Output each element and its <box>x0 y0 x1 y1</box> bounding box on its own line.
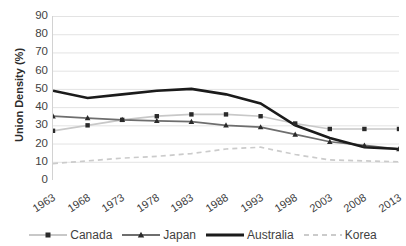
legend-item-australia[interactable]: Australia <box>206 228 294 242</box>
marker-canada <box>189 112 193 116</box>
marker-canada <box>397 127 399 131</box>
legend-swatch-korea-icon <box>304 230 342 240</box>
y-tick-label: 50 <box>35 83 48 95</box>
legend-swatch-canada-icon <box>29 230 67 240</box>
legend-item-korea[interactable]: Korea <box>304 228 377 242</box>
marker-canada <box>155 114 159 118</box>
marker-canada <box>293 121 297 125</box>
legend-item-japan[interactable]: Japan <box>122 228 196 242</box>
y-tick-label: 30 <box>35 120 48 132</box>
y-tick-label: 60 <box>35 65 48 77</box>
marker-canada <box>224 112 228 116</box>
chart-legend: CanadaJapanAustraliaKorea <box>0 224 406 246</box>
marker-canada <box>258 114 262 118</box>
legend-label-japan: Japan <box>163 228 196 242</box>
y-tick-label: 80 <box>35 28 48 40</box>
legend-item-canada[interactable]: Canada <box>29 228 112 242</box>
legend-label-canada: Canada <box>70 228 112 242</box>
legend-label-australia: Australia <box>247 228 294 242</box>
y-tick-label: 20 <box>35 138 48 150</box>
legend-swatch-japan-icon <box>122 230 160 240</box>
x-axis-tick-labels: 1963196819731978198319881993199820032008… <box>0 180 406 220</box>
plot-svg <box>53 16 399 180</box>
marker-canada <box>328 127 332 131</box>
y-tick-label: 40 <box>35 101 48 113</box>
legend-swatch-australia-icon <box>206 230 244 240</box>
marker-canada <box>85 123 89 127</box>
y-axis-tick-labels: 9080706050403020100 <box>22 0 48 190</box>
legend-label-korea: Korea <box>345 228 377 242</box>
marker-canada <box>362 127 366 131</box>
union-density-line-chart: Union Density (%) 9080706050403020100 19… <box>0 0 406 246</box>
y-tick-label: 70 <box>35 47 48 59</box>
y-tick-label: 10 <box>35 156 48 168</box>
series-line-korea <box>53 147 399 163</box>
marker-canada <box>53 129 55 133</box>
y-tick-label: 90 <box>35 10 48 22</box>
plot-area <box>52 16 399 180</box>
